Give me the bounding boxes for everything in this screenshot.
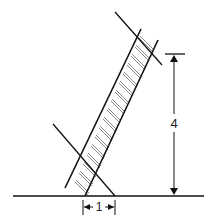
ladder-left-rail xyxy=(65,29,141,188)
arrow-right-icon xyxy=(108,204,114,210)
top-perpendicular-line xyxy=(115,12,162,65)
height-label: 4 xyxy=(170,116,177,131)
ladder-ratio-diagram: 4 1 xyxy=(0,0,215,223)
base-dimension: 1 xyxy=(83,200,115,215)
ladder-rungs xyxy=(75,36,153,195)
height-dimension: 4 xyxy=(165,54,185,195)
arrow-up-icon xyxy=(170,55,178,62)
arrow-down-icon xyxy=(170,188,178,195)
ladder-right-rail xyxy=(85,40,158,196)
base-label: 1 xyxy=(96,200,103,214)
arrow-left-icon xyxy=(84,204,90,210)
